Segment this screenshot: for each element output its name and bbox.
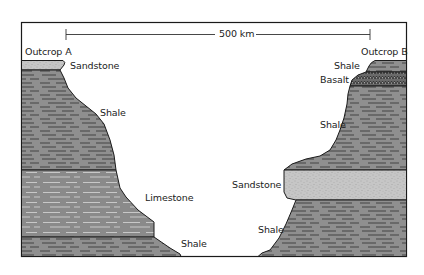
outcrop-a-shale-lower-label: Shale (181, 239, 207, 249)
outcrop-a-shale-upper-layer (22, 70, 117, 170)
outcrop-a-sandstone-layer (22, 61, 65, 71)
outcrop-b-basalt-label: Basalt (320, 75, 349, 85)
outcrop-b-sandstone-label: Sandstone (232, 180, 281, 190)
outcrop-a-sandstone-label: Sandstone (70, 61, 119, 71)
outcrop-b-shale-top-label: Shale (334, 61, 360, 71)
outcrop-b-basalt-layer (350, 72, 407, 86)
outcrop-a-shale-lower-layer (22, 237, 182, 257)
outcrop-b-sandstone-layer (284, 170, 407, 200)
outcrop-a-limestone-label: Limestone (145, 193, 193, 203)
outcrop-a-label: Outcrop A (25, 47, 72, 57)
outcrop-b-shale-top-layer (366, 61, 407, 73)
geologic-cross-section (0, 0, 424, 275)
outcrop-b-label: Outcrop B (361, 47, 408, 57)
outcrop-b-shale-middle-label: Shale (320, 120, 346, 130)
outcrop-a-shale-upper-label: Shale (100, 108, 126, 118)
scale-bar-label: 500 km (217, 29, 256, 39)
outcrop-b-shale-lower-label: Shale (258, 225, 284, 235)
outcrop-a-limestone-layer (22, 170, 155, 237)
